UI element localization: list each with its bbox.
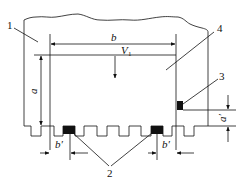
element-2-block-right: [151, 126, 163, 134]
callout-4: 4: [217, 22, 223, 34]
callout-2: 2: [107, 167, 113, 179]
velocity-subscript: 1: [128, 50, 132, 58]
dimension-b: b: [51, 31, 175, 44]
dimension-b-prime-left-label: b′: [55, 138, 64, 150]
dimension-b-label: b: [111, 31, 117, 43]
dimension-a: a: [27, 56, 41, 125]
leader-lines: [14, 28, 218, 166]
dimension-b-prime-right-label: b′: [162, 138, 171, 150]
dimension-a-prime: a′: [216, 95, 228, 142]
element-3-block: [177, 101, 183, 110]
velocity-arrow: V 1: [115, 44, 132, 78]
callout-3: 3: [219, 70, 225, 82]
callout-1: 1: [7, 19, 13, 31]
dimension-a-label: a: [27, 88, 39, 94]
dimension-b-prime-right: b′: [148, 138, 194, 153]
cross-section-diagram: b V 1 a a′ b′ b′: [0, 0, 247, 190]
dimension-a-prime-label: a′: [216, 114, 228, 123]
